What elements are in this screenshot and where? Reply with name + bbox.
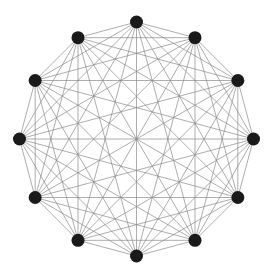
graph-edge bbox=[78, 38, 238, 198]
graph-node bbox=[13, 133, 26, 146]
graph-edge bbox=[78, 240, 137, 256]
graph-edge bbox=[35, 81, 195, 241]
graph-edge bbox=[78, 22, 137, 38]
graph-node bbox=[189, 234, 202, 247]
graph-edge bbox=[20, 139, 79, 240]
graph-edge bbox=[20, 139, 36, 198]
edges bbox=[20, 22, 254, 256]
graph-edge bbox=[20, 139, 196, 240]
graph-node bbox=[189, 31, 202, 44]
graph-edge bbox=[137, 240, 196, 256]
graph-edge bbox=[78, 38, 238, 81]
graph-edge bbox=[137, 22, 196, 38]
graph-edge bbox=[35, 38, 195, 198]
graph-node bbox=[72, 234, 85, 247]
graph-node bbox=[247, 133, 260, 146]
graph-edge bbox=[35, 81, 136, 257]
graph-edge bbox=[238, 139, 254, 198]
graph-edge bbox=[78, 81, 238, 241]
graph-edge bbox=[35, 81, 78, 241]
graph-node bbox=[130, 16, 143, 29]
graph-node bbox=[231, 191, 244, 204]
graph-edge bbox=[20, 38, 79, 139]
graph-node bbox=[29, 74, 42, 87]
graph-node bbox=[130, 250, 143, 263]
graph-edge bbox=[20, 81, 36, 140]
graph-edge bbox=[35, 198, 136, 257]
graph-node bbox=[29, 191, 42, 204]
graph-edge bbox=[78, 38, 254, 139]
graph-edge bbox=[238, 81, 254, 140]
complete-graph-diagram bbox=[0, 0, 273, 275]
graph-node bbox=[231, 74, 244, 87]
graph-edge bbox=[35, 38, 78, 198]
graph-node bbox=[72, 31, 85, 44]
